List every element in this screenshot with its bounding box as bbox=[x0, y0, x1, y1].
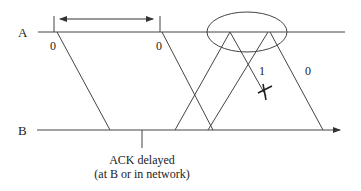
host-b-label: B bbox=[18, 123, 27, 138]
segment-0-next bbox=[270, 32, 323, 130]
segment-0-next-label: 0 bbox=[305, 64, 311, 78]
ack-delayed-sublabel: (at B or in network) bbox=[94, 167, 189, 181]
segment-1-label: 1 bbox=[259, 64, 265, 78]
sequence-diagram: A B 0 0 1 0 ACK delayed (at B or in netw… bbox=[0, 0, 361, 191]
host-a-label: A bbox=[18, 25, 28, 40]
segment-0-retransmit-label: 0 bbox=[156, 39, 162, 53]
ack-1 bbox=[175, 32, 230, 130]
segment-0-first bbox=[57, 32, 110, 130]
segment-0-first-label: 0 bbox=[50, 39, 56, 53]
segment-0-retransmit bbox=[162, 32, 213, 130]
ack-delayed-label: ACK delayed bbox=[109, 153, 175, 167]
